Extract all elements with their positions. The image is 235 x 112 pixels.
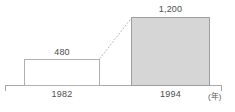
bar-value-label-1994: 1,200 — [131, 4, 210, 14]
bar-value-label-1982: 480 — [24, 47, 100, 57]
dotted-connector-line — [96, 12, 136, 64]
x-axis-tick-label-1994: 1994 — [131, 89, 210, 99]
x-axis-left-cap — [5, 86, 6, 91]
bar-comparison-figure: 480 1,200 1982 1994 (年) — [0, 0, 235, 112]
bar-1994 — [131, 17, 210, 86]
x-axis-tick-label-1982: 1982 — [24, 89, 100, 99]
x-axis-unit-label: (年) — [208, 90, 221, 101]
bar-1982 — [24, 59, 100, 86]
clipped-caption-strip — [0, 103, 235, 112]
